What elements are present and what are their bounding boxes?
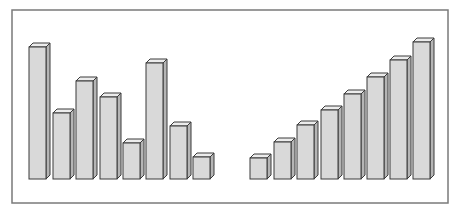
bar bbox=[413, 38, 434, 179]
bar bbox=[250, 154, 271, 179]
bar bbox=[123, 139, 144, 179]
bar bbox=[321, 106, 342, 179]
bar bbox=[297, 121, 318, 179]
bar bbox=[367, 73, 388, 179]
bar bbox=[344, 90, 365, 179]
bar bbox=[146, 59, 167, 179]
bar bbox=[53, 109, 74, 179]
bar bbox=[76, 77, 97, 179]
bar bbox=[170, 122, 191, 179]
bar bbox=[274, 138, 295, 179]
bar bbox=[390, 56, 411, 179]
bar bbox=[193, 153, 214, 179]
bar bbox=[100, 93, 121, 179]
bar-chart-figure bbox=[0, 0, 457, 213]
bar bbox=[29, 43, 50, 179]
